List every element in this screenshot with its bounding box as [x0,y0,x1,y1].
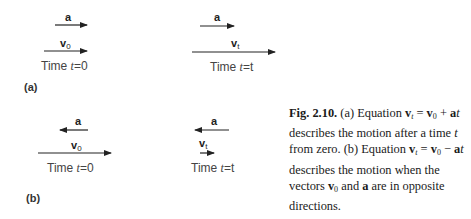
acceleration-label-bt: a [211,116,217,127]
panel-label-b: (b) [26,192,40,204]
time-label-a0: Time t=0 [41,60,88,72]
figure-number: Fig. 2.10. [289,106,337,120]
velocity-label-b0: v0 [71,140,82,154]
acceleration-label-at: a [214,12,220,23]
panel-label-a: (a) [24,81,37,93]
velocity-label-bt: vt [199,138,207,152]
figure-caption: Fig. 2.10. (a) Equation vt = v0 + at des… [289,105,469,214]
time-label-b0: Time t=0 [47,162,94,174]
time-label-at: Time t=t [210,61,253,73]
velocity-label-a0: v0 [60,38,71,52]
acceleration-label-b0: a [75,116,81,127]
acceleration-label-a0: a [65,12,71,23]
velocity-label-at: vt [231,38,239,52]
time-label-bt: Time t=t [191,162,234,174]
